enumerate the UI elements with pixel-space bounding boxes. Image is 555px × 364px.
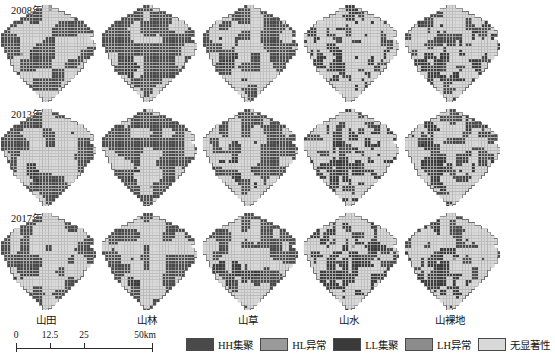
scale-tick-3 [152, 343, 153, 352]
map-panel-2-4 [303, 108, 399, 206]
map-panel-1-5 [404, 4, 500, 102]
map-canvas-3-1 [0, 212, 96, 310]
legend-item-ll: LL集聚 [333, 337, 398, 352]
legend-label-ns: 无显著性 [510, 337, 550, 352]
scale-tick-label-1: 12.5 [42, 330, 59, 340]
map-panel-1-2 [101, 4, 197, 102]
map-canvas-1-1 [0, 4, 96, 102]
map-canvas-3-5 [404, 212, 500, 310]
legend: HH集聚HL异常LL集聚LH异常无显著性 [186, 336, 555, 352]
map-panel-2-5 [404, 108, 500, 206]
map-panel-3-1 [0, 212, 96, 310]
scale-tick-label-0: 0 [14, 330, 19, 340]
map-canvas-1-3 [202, 4, 298, 102]
scale-tick-0 [16, 343, 17, 352]
map-panel-2-2 [101, 108, 197, 206]
map-canvas-2-4 [303, 108, 399, 206]
column-label-2: 山林 [97, 312, 197, 327]
legend-label-hh: HH集聚 [218, 337, 253, 352]
column-label-1: 山田 [0, 312, 96, 327]
legend-label-hl: HL异常 [292, 337, 326, 352]
legend-swatch-hl [260, 338, 288, 351]
map-canvas-2-5 [404, 108, 500, 206]
scale-tick-label-2: 25 [79, 330, 89, 340]
legend-swatch-ns [478, 338, 506, 351]
map-panel-grid: 2008年2013年2017年 [0, 0, 520, 312]
map-panel-3-5 [404, 212, 500, 310]
map-panel-1-3 [202, 4, 298, 102]
scale-tick-label-3: 50km [134, 330, 156, 340]
legend-swatch-ll [333, 338, 361, 351]
column-label-row: 山田山林山草山水山裸地 [0, 312, 520, 328]
map-canvas-1-5 [404, 4, 500, 102]
map-canvas-2-2 [101, 108, 197, 206]
map-panel-3-2 [101, 212, 197, 310]
map-row-1: 2008年 [0, 0, 520, 104]
map-panel-3-3 [202, 212, 298, 310]
legend-swatch-lh [405, 338, 433, 351]
scale-bar: 012.52550km [8, 330, 168, 360]
legend-item-ns: 无显著性 [478, 337, 550, 352]
map-canvas-2-1 [0, 108, 96, 206]
map-panel-1-1 [0, 4, 96, 102]
scale-bar-tick-labels: 012.52550km [8, 330, 168, 343]
map-canvas-1-4 [303, 4, 399, 102]
column-label-5: 山裸地 [400, 312, 500, 327]
map-panel-3-4 [303, 212, 399, 310]
scale-tick-2 [84, 343, 85, 349]
legend-swatch-hh [186, 338, 214, 351]
legend-label-lh: LH异常 [437, 337, 471, 352]
map-canvas-3-3 [202, 212, 298, 310]
legend-label-ll: LL集聚 [365, 337, 398, 352]
map-row-2: 2013年 [0, 104, 520, 208]
map-panel-1-4 [303, 4, 399, 102]
legend-item-hh: HH集聚 [186, 337, 253, 352]
map-row-3: 2017年 [0, 208, 520, 312]
legend-item-lh: LH异常 [405, 337, 471, 352]
map-panel-2-3 [202, 108, 298, 206]
legend-item-hl: HL异常 [260, 337, 326, 352]
scale-tick-1 [50, 343, 51, 349]
map-canvas-2-3 [202, 108, 298, 206]
column-label-4: 山水 [299, 312, 399, 327]
column-label-3: 山草 [198, 312, 298, 327]
map-canvas-1-2 [101, 4, 197, 102]
map-canvas-3-4 [303, 212, 399, 310]
map-canvas-3-2 [101, 212, 197, 310]
map-panel-2-1 [0, 108, 96, 206]
